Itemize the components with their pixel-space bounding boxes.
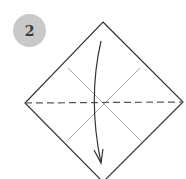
fold-diagram-graphic: [0, 0, 186, 179]
origami-step-diagram: 2: [0, 0, 186, 179]
paper-square-outline: [25, 22, 183, 179]
valley-fold-line: [25, 102, 183, 103]
